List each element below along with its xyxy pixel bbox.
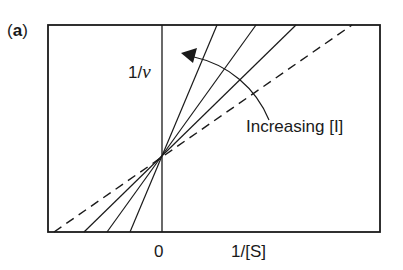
y-axis-label: 1/ν — [128, 61, 151, 83]
arrowhead-icon — [181, 48, 197, 63]
x-tick-zero: 0 — [154, 242, 163, 262]
x-axis-label: 1/[S] — [231, 242, 266, 262]
panel-label: (a) — [7, 21, 28, 41]
annotation-increasing-inhibitor: Increasing [I] — [246, 117, 343, 137]
line-inhibitor-medium — [107, 25, 256, 232]
